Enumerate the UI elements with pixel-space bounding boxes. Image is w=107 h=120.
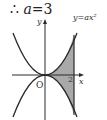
- curve-label: y=ax²: [72, 13, 97, 22]
- y-axis-arrow-icon: [43, 19, 47, 24]
- y-axis-label: y: [36, 17, 42, 26]
- parabola-diagram: y x O 2 y=ax²: [0, 0, 107, 120]
- x-axis-label: x: [79, 77, 84, 86]
- origin-label: O: [36, 80, 43, 90]
- x-tick-2-label: 2: [68, 75, 73, 84]
